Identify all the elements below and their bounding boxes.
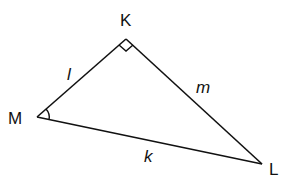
- side-label-k: k: [144, 147, 154, 166]
- right-angle-marker-icon: [119, 45, 133, 51]
- side-label-m: m: [196, 78, 210, 97]
- side-kl: [126, 39, 262, 164]
- triangle-svg: K M L l m k: [0, 0, 283, 182]
- triangle-diagram: K M L l m k: [0, 0, 283, 182]
- side-mk: [37, 39, 126, 117]
- vertex-label-k: K: [120, 11, 132, 30]
- side-label-l: l: [67, 65, 72, 84]
- angle-arc-m-icon: [46, 109, 49, 120]
- vertex-label-l: L: [269, 160, 278, 179]
- vertex-label-m: M: [8, 109, 22, 128]
